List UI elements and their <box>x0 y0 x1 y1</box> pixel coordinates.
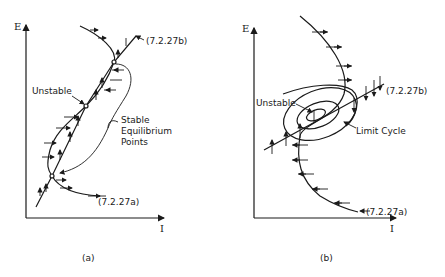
limit-cycle-label: Limit Cycle <box>356 126 406 136</box>
stable-label-line1: Stable <box>121 115 150 125</box>
curve-7-2-27a-a <box>48 26 115 196</box>
curve-b-label-b: (7.2.27b) <box>386 86 427 96</box>
stable-label-line3: Points <box>121 137 148 147</box>
curve-a-label-a: (7.2.27a) <box>98 197 139 207</box>
stable-label-line2: Equilibrium <box>121 126 172 136</box>
unstable-label-a: Unstable <box>32 86 72 96</box>
equilibrium-point-unstable-a <box>84 104 88 108</box>
caption-a: (a) <box>82 253 95 263</box>
spiral-inner-1 <box>293 96 343 135</box>
limit-cycle <box>276 78 364 151</box>
equilibrium-point-top-a <box>112 60 116 64</box>
spiral-inner-2 <box>305 107 327 124</box>
caption-b: (b) <box>320 253 333 263</box>
curve-b-label-a: (7.2.27b) <box>146 36 187 46</box>
x-axis-label-a: I <box>160 223 164 234</box>
phase-plane-figure: E I (7.2.27b) (7.2.27a) Unstable Stable … <box>0 0 445 277</box>
x-axis-label-b: I <box>390 223 394 234</box>
y-axis-label-a: E <box>14 21 21 32</box>
panel-b <box>254 16 396 218</box>
curve-a-label-b: (7.2.27a) <box>366 207 407 217</box>
unstable-label-b: Unstable <box>256 98 296 108</box>
y-axis-label-b: E <box>242 23 249 34</box>
flow-arrows-b <box>272 32 380 203</box>
equilibrium-point-bottom-a <box>50 174 54 178</box>
